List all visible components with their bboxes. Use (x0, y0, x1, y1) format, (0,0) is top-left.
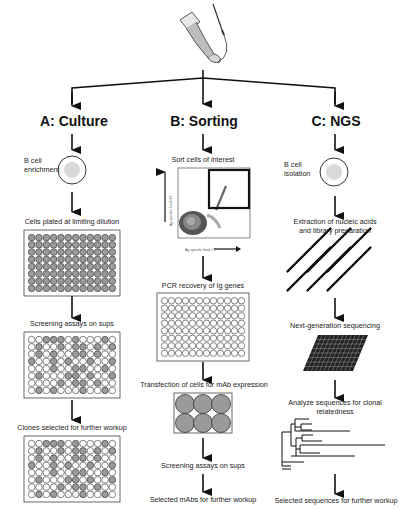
step-label-b-cell-enrichment: B cell enrichment (24, 157, 60, 174)
6-well-plate-icon (174, 393, 232, 433)
label-line: isolation (284, 170, 310, 179)
dna-helix-icon (287, 228, 371, 291)
phylogenetic-tree-icon (282, 419, 385, 469)
step-label-clones-selected: Clones selected for further workup (10, 424, 134, 433)
step-label-selected-sequences: Selected sequences for further workup (270, 497, 402, 506)
step-label-extraction: Extraction of nucleic acids and library … (280, 218, 390, 235)
step-label-selected-mabs: Selected mAbs for further workup (140, 496, 266, 505)
label-line: and library preparation (280, 227, 390, 236)
branch-connector (72, 70, 335, 106)
step-label-sort-cells: Sort cells of interest (150, 156, 256, 165)
step-label-pcr-recovery: PCR recovery of Ig genes (150, 282, 256, 291)
arm-with-syringe-icon (180, 4, 227, 63)
column-title-sorting: B: Sorting (168, 113, 240, 129)
b-cell-icon-c (320, 158, 348, 186)
label-line: relatedness (280, 408, 390, 417)
step-label-transfection: Transfection of cells for mAb expression (140, 381, 268, 390)
step-label-analyze-sequences: Analyze sequences for clonal relatedness (280, 399, 390, 416)
label-line: enrichment (24, 166, 60, 175)
step-label-b-cell-isolation: B cell isolation (284, 161, 310, 178)
step-label-ngs: Next-generation sequencing (280, 322, 390, 331)
step-label-screening-assays-b: Screening assays on sups (150, 462, 256, 471)
column-title-culture: A: Culture (40, 113, 104, 129)
flow-y-axis-label: Ag specific hook #2 (169, 196, 173, 226)
b-cell-icon-a (58, 156, 86, 184)
step-label-screening-assays-a: Screening assays on sups (14, 320, 130, 329)
workflow-diagram: Ag specific hook #1 Ag specific hook #2 (0, 0, 407, 511)
flow-x-axis-label: Ag specific hook #1 (185, 248, 215, 252)
flow-cytometry-plot-icon (165, 168, 250, 252)
sequencing-chip-icon (303, 335, 368, 371)
column-title-ngs: C: NGS (308, 113, 364, 129)
step-label-cells-plated: Cells plated at limiting dilution (14, 218, 130, 227)
